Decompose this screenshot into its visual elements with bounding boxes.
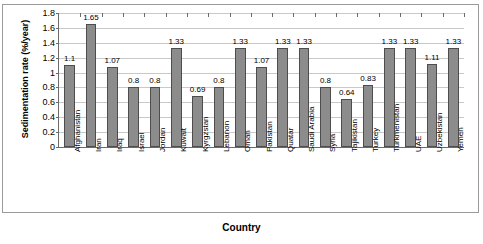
category-label: Tajikistan	[350, 119, 359, 152]
x-tick-mark	[336, 13, 337, 17]
x-tick-mark	[421, 13, 422, 17]
x-tick-mark	[379, 13, 380, 17]
x-tick-mark	[208, 13, 209, 17]
category-label: Turkey	[371, 128, 380, 152]
y-tick-label: 0	[50, 142, 55, 152]
y-tick-label: 0.6	[42, 97, 55, 107]
category-label: Lebanon	[222, 121, 231, 152]
y-tick-mark	[56, 43, 59, 44]
bar-value-label: 0.83	[360, 74, 376, 83]
x-tick-mark	[187, 13, 188, 17]
category-label: Israel	[137, 132, 146, 152]
category-label: Iraq	[115, 138, 124, 152]
y-tick-label: 1	[50, 68, 55, 78]
x-tick-mark	[123, 13, 124, 17]
x-tick-mark	[293, 13, 294, 17]
x-tick-mark	[251, 13, 252, 17]
y-tick-label: 1.4	[42, 38, 55, 48]
x-tick-mark	[315, 13, 316, 17]
category-label: Yemen	[456, 127, 465, 152]
category-label: Saudi Arabia	[307, 107, 316, 152]
x-tick-mark	[144, 13, 145, 17]
y-tick-label: 1.8	[42, 8, 55, 18]
x-tick-mark	[464, 13, 465, 17]
bar-value-label: 0.8	[213, 76, 224, 85]
y-tick-label: 0.2	[42, 127, 55, 137]
category-label: Syria	[328, 134, 337, 152]
bar-value-label: 1.33	[382, 37, 398, 46]
bar-value-label: 0.69	[190, 85, 206, 94]
bar-value-label: 1.07	[254, 56, 270, 65]
bar-value-label: 0.64	[339, 88, 355, 97]
x-tick-mark	[166, 13, 167, 17]
x-tick-mark	[230, 13, 231, 17]
y-tick-mark	[56, 73, 59, 74]
y-tick-label: 0.8	[42, 82, 55, 92]
plot-area: 00.20.40.60.811.21.41.61.8 1.11.651.070.…	[58, 13, 464, 148]
category-label: Quatar	[286, 128, 295, 152]
bar-value-label: 0.8	[149, 76, 160, 85]
y-tick-mark	[56, 13, 59, 14]
y-tick-label: 1.6	[42, 23, 55, 33]
category-label: UAE	[414, 136, 423, 152]
bar-value-label: 1.33	[168, 37, 184, 46]
y-axis-title: Sedimentation rate (%/year)	[20, 0, 30, 159]
category-label: Kyrgzstan	[201, 116, 210, 152]
bar-value-label: 1.07	[104, 56, 120, 65]
category-label: Oman	[243, 130, 252, 152]
x-tick-mark	[357, 13, 358, 17]
y-tick-mark	[56, 132, 59, 133]
x-tick-mark	[443, 13, 444, 17]
y-tick-label: 0.4	[42, 112, 55, 122]
x-axis-title: Country	[0, 222, 483, 233]
category-label: Afghanistan	[73, 110, 82, 152]
bar-value-label: 1.33	[446, 37, 462, 46]
gridline	[59, 13, 464, 14]
y-tick-mark	[56, 28, 59, 29]
bar-value-label: 1.33	[232, 37, 248, 46]
y-tick-mark	[56, 102, 59, 103]
category-label: Jordan	[158, 128, 167, 152]
y-tick-mark	[56, 147, 59, 148]
bar	[107, 67, 118, 147]
bar-value-label: 1.33	[403, 37, 419, 46]
bar-value-label: 1.1	[64, 54, 75, 63]
y-tick-mark	[56, 117, 59, 118]
y-tick-label: 1.2	[42, 53, 55, 63]
x-tick-mark	[400, 13, 401, 17]
y-tick-mark	[56, 58, 59, 59]
bar-value-label: 0.8	[128, 76, 139, 85]
category-label: Kuwait	[179, 128, 188, 152]
bar-value-label: 1.11	[425, 53, 440, 62]
bar-value-label: 1.33	[296, 37, 312, 46]
bar	[86, 24, 97, 147]
gridline	[59, 28, 464, 29]
bar-value-label: 0.8	[320, 76, 331, 85]
y-tick-mark	[56, 87, 59, 88]
category-label: Pakistan	[265, 121, 274, 152]
bar-value-label: 1.65	[83, 13, 99, 22]
x-tick-mark	[102, 13, 103, 17]
x-tick-mark	[80, 13, 81, 17]
category-label: Iran	[94, 138, 103, 152]
sedimentation-rate-bar-chart: Sedimentation rate (%/year) 00.20.40.60.…	[0, 0, 483, 244]
category-label: Turkmenistan	[392, 104, 401, 152]
bar-value-label: 1.33	[275, 37, 291, 46]
category-label: Uzbekistan	[435, 112, 444, 152]
bar	[405, 48, 416, 147]
x-tick-mark	[272, 13, 273, 17]
